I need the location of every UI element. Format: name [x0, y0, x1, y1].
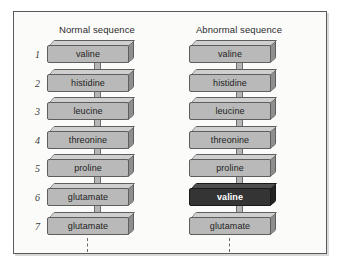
- residue-row: threonine: [164, 128, 314, 157]
- residue-row: 3 leucine: [22, 99, 172, 128]
- residue-label: valine: [76, 49, 100, 59]
- box-face: valine: [189, 188, 271, 206]
- residue-row: 2 histidine: [22, 71, 172, 100]
- residue-row: valine: [164, 42, 314, 71]
- residue-label: proline: [74, 163, 102, 173]
- box-face: glutamate: [189, 217, 271, 235]
- residue-box[interactable]: histidine: [47, 74, 129, 92]
- residue-index: 3: [28, 106, 40, 117]
- residue-row: valine: [164, 185, 314, 214]
- residue-label: valine: [218, 49, 242, 59]
- residue-chain-abnormal: valine histidine: [164, 42, 314, 242]
- residue-index: 1: [28, 49, 40, 60]
- residue-row: 4 threonine: [22, 128, 172, 157]
- box-face: threonine: [189, 131, 271, 149]
- residue-label: threonine: [211, 135, 249, 145]
- residue-index: 4: [28, 135, 40, 146]
- residue-box[interactable]: proline: [189, 159, 271, 177]
- residue-row: 6 glutamate: [22, 185, 172, 214]
- residue-row: leucine: [164, 99, 314, 128]
- residue-row: 5 proline: [22, 156, 172, 185]
- box-face: histidine: [47, 74, 129, 92]
- residue-box[interactable]: threonine: [189, 131, 271, 149]
- box-face: histidine: [189, 74, 271, 92]
- residue-box-mutated[interactable]: valine: [189, 188, 271, 206]
- residue-box[interactable]: valine: [47, 45, 129, 63]
- residue-index: 7: [28, 221, 40, 232]
- column-title-abnormal: Abnormal sequence: [164, 24, 314, 35]
- residue-label: glutamate: [68, 192, 108, 202]
- residue-row: proline: [164, 156, 314, 185]
- residue-box[interactable]: valine: [189, 45, 271, 63]
- sequence-continuation-dashes: [229, 238, 230, 252]
- box-face: leucine: [189, 102, 271, 120]
- residue-box[interactable]: glutamate: [189, 217, 271, 235]
- residue-index: 6: [28, 192, 40, 203]
- residue-label: leucine: [215, 106, 244, 116]
- residue-box[interactable]: threonine: [47, 131, 129, 149]
- residue-box[interactable]: glutamate: [47, 188, 129, 206]
- residue-label: histidine: [71, 78, 105, 88]
- residue-index: 2: [28, 78, 40, 89]
- residue-row: 7 glutamate: [22, 214, 172, 243]
- residue-row: histidine: [164, 71, 314, 100]
- residue-label: glutamate: [68, 221, 108, 231]
- residue-row: glutamate: [164, 214, 314, 243]
- box-face: leucine: [47, 102, 129, 120]
- box-face: proline: [47, 159, 129, 177]
- residue-chain-normal: 1 valine 2 histidine: [22, 42, 172, 242]
- box-face: proline: [189, 159, 271, 177]
- residue-label: leucine: [73, 106, 102, 116]
- residue-label: valine: [217, 192, 243, 202]
- residue-box[interactable]: leucine: [189, 102, 271, 120]
- box-face: glutamate: [47, 188, 129, 206]
- residue-label: proline: [216, 163, 244, 173]
- residue-label: histidine: [213, 78, 247, 88]
- residue-label: threonine: [69, 135, 107, 145]
- residue-box[interactable]: glutamate: [47, 217, 129, 235]
- residue-label: glutamate: [210, 221, 250, 231]
- residue-box[interactable]: proline: [47, 159, 129, 177]
- residue-index: 5: [28, 163, 40, 174]
- figure-frame: Normal sequence 1 valine 2: [13, 11, 327, 254]
- box-face: valine: [189, 45, 271, 63]
- residue-box[interactable]: leucine: [47, 102, 129, 120]
- box-face: valine: [47, 45, 129, 63]
- box-face: glutamate: [47, 217, 129, 235]
- box-face: threonine: [47, 131, 129, 149]
- residue-row: 1 valine: [22, 42, 172, 71]
- column-title-normal: Normal sequence: [22, 24, 172, 35]
- residue-box[interactable]: histidine: [189, 74, 271, 92]
- sequence-continuation-dashes: [87, 238, 88, 252]
